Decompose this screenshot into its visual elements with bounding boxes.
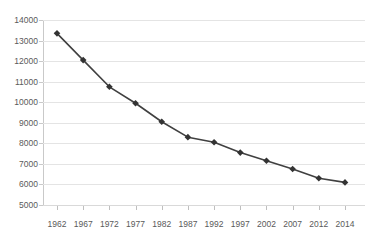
x-axis-tick-mark bbox=[266, 206, 267, 210]
gridline bbox=[43, 205, 365, 206]
x-axis-labels: 1962196719721977198219871992199720022007… bbox=[43, 213, 365, 229]
x-axis-tick-mark bbox=[188, 206, 189, 210]
data-point-marker bbox=[211, 139, 218, 146]
line-chart: 5000600070008000900010000110001200013000… bbox=[0, 0, 375, 241]
y-axis-tick-mark bbox=[39, 123, 43, 124]
x-axis-tick-label: 1972 bbox=[100, 220, 119, 229]
x-axis-tick-label: 2014 bbox=[336, 220, 355, 229]
y-axis-tick-label: 13000 bbox=[0, 37, 38, 46]
y-axis-tick-label: 7000 bbox=[0, 160, 38, 169]
y-axis-tick-label: 10000 bbox=[0, 98, 38, 107]
x-axis-tick-mark bbox=[214, 206, 215, 210]
x-axis-tick-mark bbox=[83, 206, 84, 210]
series-line bbox=[57, 33, 345, 182]
x-axis-tick-label: 1987 bbox=[178, 220, 197, 229]
y-axis-tick-mark bbox=[39, 82, 43, 83]
data-point-marker bbox=[316, 175, 323, 182]
y-axis-tick-mark bbox=[39, 61, 43, 62]
x-axis-tick-label: 1992 bbox=[205, 220, 224, 229]
y-axis-tick-mark bbox=[39, 143, 43, 144]
y-axis-tick-mark bbox=[39, 164, 43, 165]
y-axis-tick-label: 9000 bbox=[0, 119, 38, 128]
x-axis-tick-label: 1977 bbox=[126, 220, 145, 229]
x-axis-tick-label: 1962 bbox=[48, 220, 67, 229]
data-point-marker bbox=[263, 158, 270, 165]
data-series bbox=[43, 20, 365, 205]
y-axis-tick-mark bbox=[39, 102, 43, 103]
x-axis-tick-label: 1997 bbox=[231, 220, 250, 229]
y-axis-tick-label: 6000 bbox=[0, 180, 38, 189]
x-axis-tick-mark bbox=[109, 206, 110, 210]
x-axis-tick-label: 2012 bbox=[309, 220, 328, 229]
y-axis-tick-mark bbox=[39, 184, 43, 185]
data-point-marker bbox=[185, 134, 192, 141]
data-point-marker bbox=[342, 179, 349, 186]
y-axis-tick-mark bbox=[39, 41, 43, 42]
y-axis-tick-mark bbox=[39, 205, 43, 206]
x-axis-tick-mark bbox=[162, 206, 163, 210]
y-axis-tick-label: 14000 bbox=[0, 16, 38, 25]
x-axis-tick-mark bbox=[240, 206, 241, 210]
y-axis-tick-label: 5000 bbox=[0, 201, 38, 210]
x-axis-tick-label: 2002 bbox=[257, 220, 276, 229]
y-axis-tick-label: 8000 bbox=[0, 139, 38, 148]
x-axis-tick-mark bbox=[345, 206, 346, 210]
x-axis-tick-label: 2007 bbox=[283, 220, 302, 229]
x-axis-tick-label: 1967 bbox=[74, 220, 93, 229]
data-point-marker bbox=[289, 166, 296, 173]
y-axis-tick-label: 11000 bbox=[0, 78, 38, 87]
plot-area bbox=[43, 20, 365, 205]
x-axis-tick-mark bbox=[319, 206, 320, 210]
y-axis-tick-mark bbox=[39, 20, 43, 21]
data-point-marker bbox=[237, 149, 244, 156]
y-axis-tick-label: 12000 bbox=[0, 57, 38, 66]
x-axis-tick-mark bbox=[293, 206, 294, 210]
x-axis-tick-mark bbox=[57, 206, 58, 210]
x-axis-tick-mark bbox=[136, 206, 137, 210]
x-axis-tick-label: 1982 bbox=[152, 220, 171, 229]
